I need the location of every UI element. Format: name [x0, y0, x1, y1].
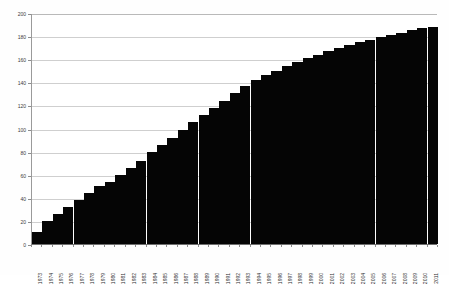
x-tick-label-1974: 1974: [49, 273, 54, 284]
x-tick-mark-1989: [198, 245, 199, 247]
x-tick-mark-1977: [73, 245, 74, 247]
x-tick-label-1979: 1979: [101, 273, 106, 284]
x-axis-labels: 1973197419751976197719781979198019811982…: [31, 246, 437, 275]
y-tick-label-80: 80: [4, 151, 26, 156]
x-tick-label-1995: 1995: [267, 273, 272, 284]
x-tick-label-1978: 1978: [90, 273, 95, 284]
y-tick-label-140: 140: [4, 81, 26, 86]
x-tick-mark-2010: [416, 245, 417, 247]
x-tick-mark-1992: [229, 245, 230, 247]
bar-1986: [167, 138, 177, 244]
x-tick-label-1986: 1986: [174, 273, 179, 284]
bar-1984: [147, 152, 157, 244]
bar-series: [32, 14, 437, 244]
bar-1996: [271, 71, 281, 244]
x-tick-label-2008: 2008: [403, 273, 408, 284]
x-tick-label-2003: 2003: [351, 273, 356, 284]
x-tick-label-2007: 2007: [392, 273, 397, 284]
x-tick-mark-1997: [281, 245, 282, 247]
bar-1993: [240, 86, 250, 244]
x-tick-mark-1990: [208, 245, 209, 247]
bar-1977: [74, 200, 84, 244]
x-tick-label-2006: 2006: [382, 273, 387, 284]
y-tick-label-100: 100: [4, 128, 26, 133]
y-tick-label-60: 60: [4, 174, 26, 179]
x-tick-mark-end: [437, 245, 438, 247]
x-tick-mark-2002: [333, 245, 334, 247]
x-tick-label-2002: 2002: [340, 273, 345, 284]
x-tick-mark-1988: [187, 245, 188, 247]
y-tick-label-180: 180: [4, 35, 26, 40]
x-tick-mark-1987: [177, 245, 178, 247]
x-tick-label-2005: 2005: [371, 273, 376, 284]
x-tick-label-1975: 1975: [59, 273, 64, 284]
y-tick-label-40: 40: [4, 197, 26, 202]
bar-2006: [376, 37, 386, 244]
x-tick-label-2011: 2011: [434, 273, 439, 284]
bar-1987: [178, 130, 188, 244]
x-tick-label-1997: 1997: [288, 273, 293, 284]
x-tick-mark-1981: [114, 245, 115, 247]
x-tick-label-1981: 1981: [121, 273, 126, 284]
x-tick-label-1973: 1973: [38, 273, 43, 284]
x-tick-mark-2000: [312, 245, 313, 247]
x-tick-mark-1974: [41, 245, 42, 247]
x-tick-label-1990: 1990: [215, 273, 220, 284]
x-tick-mark-1982: [125, 245, 126, 247]
bar-2011: [428, 27, 438, 244]
bar-1974: [42, 221, 52, 244]
x-tick-mark-2006: [375, 245, 376, 247]
x-tick-label-1987: 1987: [184, 273, 189, 284]
x-tick-label-1988: 1988: [194, 273, 199, 284]
x-tick-mark-1993: [239, 245, 240, 247]
x-tick-mark-2001: [322, 245, 323, 247]
bar-2002: [334, 48, 344, 244]
bar-1979: [94, 186, 104, 244]
bar-1999: [303, 58, 313, 244]
x-tick-mark-2007: [385, 245, 386, 247]
bar-1991: [219, 101, 229, 244]
bar-1990: [209, 108, 219, 244]
x-tick-mark-1975: [52, 245, 53, 247]
x-tick-label-2001: 2001: [330, 273, 335, 284]
x-tick-label-1982: 1982: [132, 273, 137, 284]
x-tick-mark-1996: [270, 245, 271, 247]
y-tick-label-0: 0: [4, 243, 26, 248]
x-tick-mark-1976: [62, 245, 63, 247]
x-tick-label-2010: 2010: [423, 273, 428, 284]
bar-1997: [282, 66, 292, 244]
x-tick-label-1983: 1983: [142, 273, 147, 284]
bar-2004: [355, 42, 365, 244]
x-tick-label-1998: 1998: [298, 273, 303, 284]
x-tick-label-1985: 1985: [163, 273, 168, 284]
bar-2008: [396, 33, 406, 244]
y-tick-label-160: 160: [4, 58, 26, 63]
x-tick-mark-1999: [302, 245, 303, 247]
x-tick-mark-1980: [104, 245, 105, 247]
bar-1995: [261, 75, 271, 244]
bar-1983: [136, 161, 146, 244]
bar-2005: [365, 40, 375, 244]
x-tick-label-1977: 1977: [80, 273, 85, 284]
x-tick-mark-1998: [291, 245, 292, 247]
bar-1975: [53, 214, 63, 244]
bar-1989: [199, 115, 209, 244]
x-tick-mark-1994: [250, 245, 251, 247]
y-tick-label-200: 200: [4, 12, 26, 17]
y-tick-label-120: 120: [4, 104, 26, 109]
x-tick-mark-1991: [218, 245, 219, 247]
x-tick-mark-1978: [83, 245, 84, 247]
bar-1978: [84, 193, 94, 244]
bar-1976: [63, 207, 73, 244]
x-tick-label-1999: 1999: [309, 273, 314, 284]
bar-1994: [251, 80, 261, 244]
bar-2003: [344, 45, 354, 244]
x-tick-mark-2009: [406, 245, 407, 247]
x-tick-label-1980: 1980: [111, 273, 116, 284]
x-tick-mark-1983: [135, 245, 136, 247]
x-tick-mark-1985: [156, 245, 157, 247]
x-tick-mark-1973: [31, 245, 32, 247]
bar-1982: [126, 168, 136, 244]
bar-1992: [230, 93, 240, 244]
bar-1980: [105, 182, 115, 244]
